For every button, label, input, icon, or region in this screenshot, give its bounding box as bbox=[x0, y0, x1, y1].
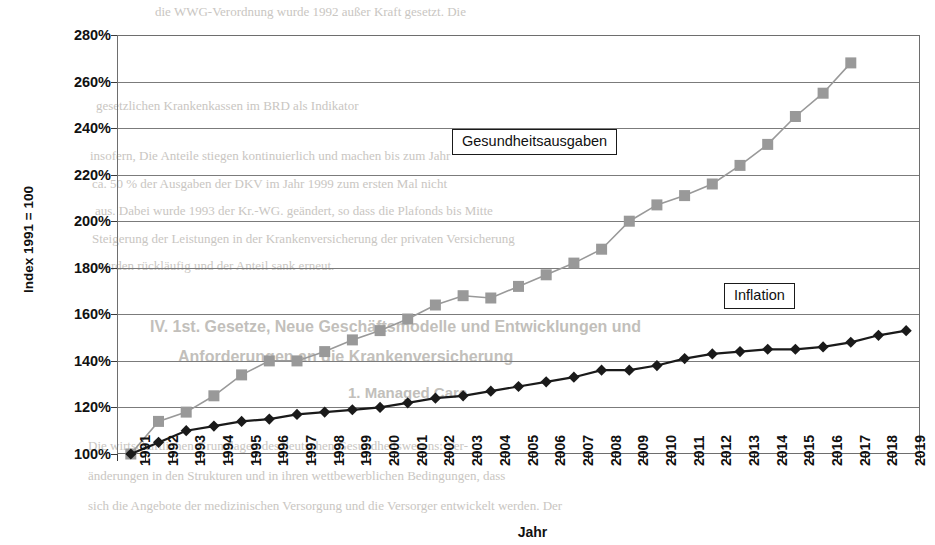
data-point bbox=[762, 139, 773, 150]
data-point bbox=[291, 409, 302, 420]
data-point bbox=[458, 290, 469, 301]
data-point bbox=[153, 416, 164, 427]
data-point bbox=[181, 425, 192, 436]
annotation-gesundheitsausgaben: Gesundheitsausgaben bbox=[452, 129, 617, 155]
x-tick-label: 2014 bbox=[774, 435, 790, 466]
data-point bbox=[541, 269, 552, 280]
data-point bbox=[596, 244, 607, 255]
x-tick-label: 1991 bbox=[137, 435, 153, 466]
data-point bbox=[790, 344, 801, 355]
x-tick-label: 2011 bbox=[691, 436, 707, 466]
data-point bbox=[707, 348, 718, 359]
data-point bbox=[402, 314, 413, 325]
x-tick-label: 2007 bbox=[580, 435, 596, 466]
x-tick-label: 2012 bbox=[718, 435, 734, 466]
x-tick-label: 2013 bbox=[746, 435, 762, 466]
data-point bbox=[319, 407, 330, 418]
data-point bbox=[735, 160, 746, 171]
data-point bbox=[568, 258, 579, 269]
data-point bbox=[790, 111, 801, 122]
x-tick-label: 1999 bbox=[358, 435, 374, 466]
data-point bbox=[762, 344, 773, 355]
data-point bbox=[153, 437, 164, 448]
data-point bbox=[374, 402, 385, 413]
x-tick-label: 2017 bbox=[857, 435, 873, 466]
data-point bbox=[707, 179, 718, 190]
x-tick-label: 2004 bbox=[497, 435, 513, 466]
x-tick-label: 2002 bbox=[441, 435, 457, 466]
x-tick-label: 1992 bbox=[165, 435, 181, 466]
x-tick-label: 2019 bbox=[912, 435, 928, 466]
data-point bbox=[181, 407, 192, 418]
data-point bbox=[817, 341, 828, 352]
x-tick-label: 2018 bbox=[884, 435, 900, 466]
data-point bbox=[485, 386, 496, 397]
x-tick-label: 1994 bbox=[220, 435, 236, 466]
data-point bbox=[430, 300, 441, 311]
data-point bbox=[679, 190, 690, 201]
data-point bbox=[513, 381, 524, 392]
data-point bbox=[485, 293, 496, 304]
x-tick-label: 1993 bbox=[192, 435, 208, 466]
data-point bbox=[596, 365, 607, 376]
data-point bbox=[347, 334, 358, 345]
x-tick-label: 1995 bbox=[248, 435, 264, 466]
data-point bbox=[734, 346, 745, 357]
data-point bbox=[208, 390, 219, 401]
chart-container: Index 1991 = 100 100%120%140%160%180%200… bbox=[0, 0, 935, 545]
x-tick-label: 1997 bbox=[303, 435, 319, 466]
x-tick-label: 2009 bbox=[635, 435, 651, 466]
x-tick-label: 2005 bbox=[525, 435, 541, 466]
annotation-inflation: Inflation bbox=[724, 283, 795, 309]
x-tick-label: 2010 bbox=[663, 435, 679, 466]
data-point bbox=[264, 413, 275, 424]
x-tick-label: 2016 bbox=[829, 435, 845, 466]
data-point bbox=[624, 216, 635, 227]
data-point bbox=[458, 390, 469, 401]
data-point bbox=[651, 199, 662, 210]
data-point bbox=[845, 337, 856, 348]
x-tick-mark bbox=[117, 454, 118, 461]
data-point bbox=[375, 325, 386, 336]
data-point bbox=[541, 376, 552, 387]
x-tick-label: 1998 bbox=[331, 435, 347, 466]
data-point bbox=[264, 355, 275, 366]
data-point bbox=[208, 420, 219, 431]
data-point bbox=[292, 355, 303, 366]
series-inflation bbox=[125, 325, 912, 460]
data-point bbox=[651, 360, 662, 371]
data-point bbox=[873, 330, 884, 341]
data-point bbox=[319, 346, 330, 357]
series-gesundheitsausgaben bbox=[125, 57, 856, 459]
x-tick-label: 2001 bbox=[414, 435, 430, 466]
x-tick-label: 2006 bbox=[552, 435, 568, 466]
data-point bbox=[568, 372, 579, 383]
x-axis-title-text: Jahr bbox=[518, 524, 548, 540]
x-tick-label: 2008 bbox=[608, 435, 624, 466]
data-point bbox=[236, 369, 247, 380]
x-tick-label: 2015 bbox=[801, 435, 817, 466]
x-tick-label: 2003 bbox=[469, 435, 485, 466]
data-point bbox=[901, 325, 912, 336]
data-point bbox=[347, 404, 358, 415]
data-point bbox=[624, 365, 635, 376]
data-point bbox=[430, 393, 441, 404]
data-point bbox=[845, 57, 856, 68]
data-point bbox=[679, 353, 690, 364]
data-point bbox=[513, 281, 524, 292]
x-axis-title: Jahr bbox=[0, 524, 935, 540]
data-point bbox=[402, 397, 413, 408]
x-tick-label: 2000 bbox=[386, 435, 402, 466]
data-point bbox=[818, 88, 829, 99]
x-tick-label: 1996 bbox=[275, 435, 291, 466]
data-point bbox=[236, 416, 247, 427]
